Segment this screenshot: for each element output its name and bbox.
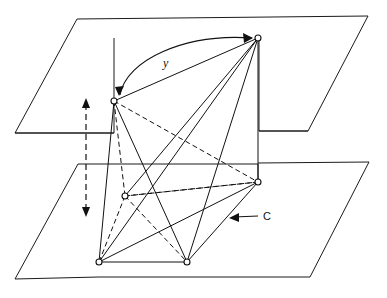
vertex-hidden [122, 193, 128, 199]
edge-left-bottomright [114, 101, 187, 262]
y-arrowhead-left [115, 86, 124, 96]
vertex-left [111, 98, 117, 104]
edge-left-bottomleft [99, 101, 114, 262]
figure-canvas: y C [0, 0, 387, 298]
vertex-bottom-right [184, 259, 190, 265]
solid-edges [99, 38, 258, 262]
upper-plane-left-outline [15, 19, 114, 133]
y-label: y [162, 56, 169, 70]
c-annotation: C [229, 210, 271, 222]
lower-plane-left-outline [15, 164, 99, 279]
edge-top-bottomleft [99, 38, 258, 262]
separation-axis [82, 98, 90, 217]
y-arrow-curve [120, 37, 252, 95]
edge-right-bottomright [187, 182, 258, 262]
c-arrowhead [229, 213, 239, 222]
edge-left-right-hidden-segment [114, 101, 258, 182]
edge-top-bottomright [187, 38, 258, 262]
c-label: C [263, 210, 271, 222]
edge-hidden-bottomleft [99, 196, 125, 262]
vertex-bottom-left [96, 259, 102, 265]
edge-left-hidden [114, 101, 125, 196]
lower-plane [15, 162, 369, 279]
edge-hidden-bottomright [125, 196, 187, 262]
vertex-top [255, 35, 261, 41]
vertex-right [255, 179, 261, 185]
upper-plane-right-outline [77, 16, 368, 131]
upper-plane [15, 16, 368, 133]
separation-arrowhead-down [82, 207, 90, 217]
hidden-edges [99, 101, 258, 262]
y-annotation: y [115, 33, 253, 96]
separation-arrowhead-up [82, 98, 90, 108]
y-arrowhead-right [243, 33, 253, 43]
geometry-figure: y C [0, 0, 387, 298]
